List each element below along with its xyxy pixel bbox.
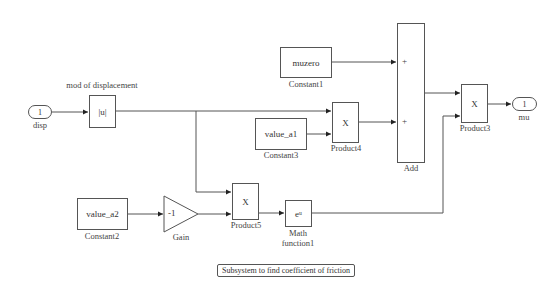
constant1-value: muzero	[293, 58, 320, 68]
constant2-block[interactable]: value_a2	[77, 198, 128, 230]
abs-block[interactable]: |u|	[89, 95, 116, 128]
inport-number: 1	[38, 108, 42, 117]
constant2-value: value_a2	[86, 209, 118, 219]
add-label: Add	[404, 163, 419, 173]
outport-number: 1	[523, 100, 527, 109]
product3-symbol: X	[471, 99, 478, 109]
gain-value: -1	[168, 208, 176, 218]
product5-block[interactable]: X	[232, 183, 259, 220]
constant3-value: value_a1	[265, 129, 297, 139]
product4-block[interactable]: X	[332, 102, 359, 143]
add-plus-sign-2: +	[402, 116, 407, 126]
add-plus-sign-1: +	[402, 56, 407, 66]
add-block[interactable]	[397, 23, 425, 163]
product5-label: Product5	[231, 220, 262, 230]
subsystem-annotation: Subsystem to find coefficient of frictio…	[217, 264, 355, 277]
math-function-label-line2: function1	[282, 238, 315, 248]
gain-label: Gain	[173, 232, 190, 242]
math-function-label-line1: Math	[289, 228, 307, 238]
constant1-label: Constant1	[289, 79, 323, 89]
product5-symbol: X	[242, 197, 249, 207]
inport-label: disp	[33, 120, 47, 130]
abs-block-content: |u|	[98, 107, 106, 117]
inport-disp[interactable]: 1	[28, 105, 52, 119]
product3-label: Product3	[460, 123, 491, 133]
outport-label: mu	[519, 112, 530, 122]
constant2-label: Constant2	[85, 231, 119, 241]
constant1-block[interactable]: muzero	[280, 47, 332, 78]
outport-mu[interactable]: 1	[512, 97, 537, 111]
math-function-block[interactable]: eᵘ	[285, 200, 312, 227]
product4-label: Product4	[331, 143, 362, 153]
abs-block-label: mod of displacement	[66, 80, 137, 90]
math-function-expression: eᵘ	[295, 209, 302, 219]
constant3-block[interactable]: value_a1	[255, 118, 307, 150]
product3-block[interactable]: X	[461, 84, 488, 123]
constant3-label: Constant3	[264, 150, 298, 160]
product4-symbol: X	[342, 118, 349, 128]
